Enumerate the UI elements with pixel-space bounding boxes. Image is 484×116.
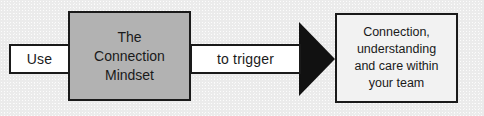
outcome-text: Connection, understanding and care withi… xyxy=(349,24,443,92)
diagram-canvas: Use The Connection Mindset to trigger Co… xyxy=(0,0,484,116)
arrow-head-icon xyxy=(299,22,335,96)
to-trigger-label-text: to trigger xyxy=(217,51,274,67)
connection-mindset-box: The Connection Mindset xyxy=(68,11,191,101)
outcome-box: Connection, understanding and care withi… xyxy=(335,13,458,103)
use-label-box: Use xyxy=(9,44,70,74)
connection-mindset-text: The Connection Mindset xyxy=(90,28,169,85)
to-trigger-label-box: to trigger xyxy=(190,44,301,74)
use-label-text: Use xyxy=(27,51,53,67)
